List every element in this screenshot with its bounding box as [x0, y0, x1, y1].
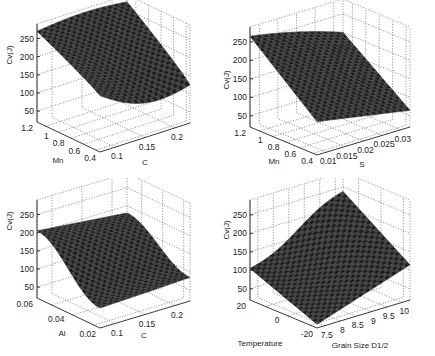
y-tick-label: 0.8	[268, 142, 280, 152]
x-tick-label: 0.025	[373, 139, 395, 149]
y-tick-label: 1.2	[21, 123, 33, 133]
z-tick-label: 250	[233, 210, 247, 220]
plot-svg: 50100150200250200-207.588.599.510Tempera…	[220, 178, 435, 356]
plot-svg: 501001502002501.210.80.60.40.010.0150.02…	[220, 0, 435, 178]
x-tick-label: 0.03	[394, 134, 411, 144]
z-tick-label: 150	[233, 74, 247, 84]
z-tick-label: 50	[238, 284, 248, 294]
z-tick-label: 150	[233, 247, 247, 257]
x-tick-label: 0.15	[139, 319, 156, 329]
y-tick-label: 0	[275, 315, 280, 325]
x-tick-label: 0.1	[111, 151, 123, 161]
y-tick-label: 20	[237, 301, 247, 311]
x-tick-label: 8	[340, 325, 345, 335]
x-axis-label: Grain Size D1/2	[332, 341, 389, 350]
z-tick-label: 250	[20, 210, 34, 220]
x-tick-label: 0.15	[139, 142, 156, 152]
x-tick-label: 7.5	[321, 330, 333, 340]
z-tick-label: 250	[233, 37, 247, 47]
y-tick-label: 0.06	[16, 299, 33, 309]
y-axis-label: Mn	[52, 156, 63, 165]
z-tick-label: 150	[20, 70, 34, 80]
x-tick-label: 8.5	[352, 320, 364, 330]
z-axis-label: Cv(J)	[5, 45, 14, 64]
x-axis-label: C	[142, 158, 148, 167]
y-tick-label: 0.8	[53, 138, 65, 148]
x-tick-label: 9.5	[383, 311, 395, 321]
surface-plot-temp-grain: 50100150200250200-207.588.599.510Tempera…	[220, 178, 435, 356]
x-axis-label: C	[141, 331, 147, 340]
z-axis-label: Cv(J)	[5, 211, 14, 230]
plot-svg: 501001502002500.060.040.020.10.150.2AlCC…	[0, 178, 220, 356]
z-tick-label: 100	[233, 265, 247, 275]
z-tick-label: 250	[20, 34, 34, 44]
y-tick-label: 1	[258, 135, 263, 145]
surface-plot-c-mn: 501001502002501.210.80.60.40.10.150.2MnC…	[0, 0, 220, 178]
x-tick-label: 0.01	[320, 156, 337, 166]
y-axis-label: Al	[58, 329, 65, 338]
y-tick-label: 1	[44, 131, 49, 141]
z-axis-label: Cv(J)	[222, 220, 231, 239]
z-axis-label: Cv(J)	[222, 70, 231, 89]
surface-plot-s-mn: 501001502002501.210.80.60.40.010.0150.02…	[220, 0, 435, 178]
y-tick-label: 1.2	[234, 128, 246, 138]
x-tick-label: 0.02	[357, 145, 374, 155]
z-tick-label: 100	[20, 88, 34, 98]
z-tick-label: 200	[20, 52, 34, 62]
x-tick-label: 0.1	[111, 328, 123, 338]
z-tick-label: 50	[25, 106, 35, 116]
x-tick-label: 10	[400, 306, 410, 316]
surface-plot-c-al: 501001502002500.060.040.020.10.150.2AlCC…	[0, 178, 220, 356]
x-tick-label: 0.2	[171, 310, 183, 320]
y-tick-label: 0.02	[79, 329, 96, 339]
z-tick-label: 150	[20, 246, 34, 256]
x-tick-label: 0.2	[171, 132, 183, 142]
z-tick-label: 200	[20, 228, 34, 238]
plot-svg: 501001502002501.210.80.60.40.10.150.2MnC…	[0, 0, 220, 178]
y-axis-label: Temperature	[238, 339, 283, 348]
x-tick-label: 9	[371, 316, 376, 326]
z-tick-label: 100	[20, 264, 34, 274]
x-axis-label: S	[359, 160, 364, 169]
y-tick-label: 0.04	[48, 314, 65, 324]
y-tick-label: 0.4	[84, 153, 96, 163]
y-axis-label: Mn	[268, 157, 279, 166]
y-tick-label: 0.4	[301, 156, 313, 166]
x-tick-label: 0.015	[336, 151, 358, 161]
z-tick-label: 200	[233, 228, 247, 238]
y-tick-label: 0.6	[284, 149, 296, 159]
z-tick-label: 200	[233, 55, 247, 65]
y-tick-label: -20	[301, 329, 314, 339]
y-tick-label: 0.6	[68, 146, 80, 156]
z-tick-label: 100	[233, 92, 247, 102]
z-tick-label: 50	[238, 111, 248, 121]
z-tick-label: 50	[25, 282, 35, 292]
